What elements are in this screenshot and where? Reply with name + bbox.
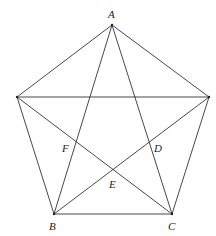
labels: A B C F D E [49,8,176,232]
vertex-c [171,213,173,215]
edge-left-b [17,97,54,214]
diagonal-right-b [54,97,209,214]
label-b: B [49,220,56,232]
diagonal-a-b [54,25,112,214]
label-e: E [108,178,116,190]
vertex-b [53,213,55,215]
label-f: F [61,142,69,154]
label-a: A [107,8,115,20]
edge-right-c [172,97,209,214]
label-d: D [153,142,162,154]
vertex-a [111,24,113,26]
diagonal-a-c [112,25,172,214]
edge-a-left [17,25,112,97]
label-c: C [168,220,176,232]
pentagon-diagram: A B C F D E [0,0,216,236]
diagonal-left-c [17,97,172,214]
vertex-left [16,96,18,98]
edge-a-right [112,25,209,97]
vertex-right [208,96,210,98]
